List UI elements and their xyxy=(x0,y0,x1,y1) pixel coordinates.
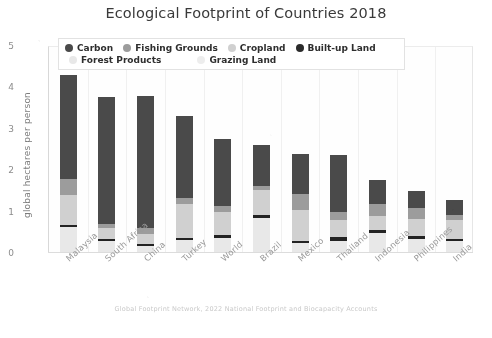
gridline xyxy=(204,47,205,253)
y-axis-tick-label: 4 xyxy=(0,82,14,92)
bar-malaysia[interactable] xyxy=(60,75,77,253)
bar-segment-cropland xyxy=(330,220,347,237)
bar-segment-carbon xyxy=(176,116,193,198)
bar-segment-cropland xyxy=(98,228,115,239)
bar-philippines[interactable] xyxy=(408,191,425,253)
legend-swatch-icon xyxy=(65,44,73,52)
bar-segment-fishing-grounds xyxy=(60,179,77,195)
y-axis-tick-label: 0 xyxy=(0,248,14,258)
bar-world[interactable] xyxy=(214,139,231,253)
legend-item-grazing-land[interactable]: Grazing Land xyxy=(197,54,276,66)
legend-label: Grazing Land xyxy=(209,55,276,65)
chart-figure: Ecological Footprint of Countries 2018 g… xyxy=(0,0,492,338)
bar-segment-carbon xyxy=(408,191,425,208)
bar-south-africa[interactable] xyxy=(98,97,115,253)
bar-segment-cropland xyxy=(369,216,386,230)
bar-segment-carbon xyxy=(98,97,115,224)
bar-segment-carbon xyxy=(446,200,463,215)
y-axis-label: global hectares per person xyxy=(22,65,32,245)
legend-label: Carbon xyxy=(77,43,113,53)
y-axis-tick-label: 5 xyxy=(0,41,14,51)
bar-segment-carbon xyxy=(292,154,309,195)
chart-title: Ecological Footprint of Countries 2018 xyxy=(0,5,492,21)
bar-segment-carbon xyxy=(60,75,77,179)
legend-item-built-up-land[interactable]: Built-up Land xyxy=(296,42,376,54)
source-footnote: Global Footprint Network, 2022 National … xyxy=(0,305,492,313)
gridline xyxy=(435,47,436,253)
bar-segment-cropland xyxy=(60,195,77,225)
bar-brazil[interactable] xyxy=(253,145,270,253)
y-axis-tick-label: 1 xyxy=(0,207,14,217)
bar-turkey[interactable] xyxy=(176,116,193,253)
gridline xyxy=(319,47,320,253)
legend-swatch-icon xyxy=(197,56,205,64)
bar-segment-carbon xyxy=(369,180,386,204)
bar-segment-cropland xyxy=(176,204,193,238)
bar-segment-carbon xyxy=(137,96,154,228)
bar-segment-fishing-grounds xyxy=(292,194,309,210)
legend-swatch-icon xyxy=(228,44,236,52)
legend-label: Forest Products xyxy=(81,55,161,65)
gridline xyxy=(88,47,89,253)
bar-segment-fishing-grounds xyxy=(330,212,347,220)
gridline xyxy=(165,47,166,253)
bar-segment-carbon xyxy=(214,139,231,206)
bar-segment-cropland xyxy=(292,210,309,241)
plot-area xyxy=(48,46,473,253)
legend-item-carbon[interactable]: Carbon xyxy=(65,42,113,54)
y-axis-tick-label: 2 xyxy=(0,165,14,175)
gridline xyxy=(358,47,359,253)
legend-label: Built-up Land xyxy=(308,43,376,53)
bar-segment-carbon xyxy=(330,155,347,212)
bar-segment-cropland xyxy=(214,212,231,235)
bar-segment-carbon xyxy=(253,145,270,186)
gridline xyxy=(397,47,398,253)
legend-item-cropland[interactable]: Cropland xyxy=(228,42,286,54)
legend-swatch-icon xyxy=(69,56,77,64)
bar-indonesia[interactable] xyxy=(369,180,386,253)
legend-item-forest-products[interactable]: Forest Products xyxy=(69,54,161,66)
legend-swatch-icon xyxy=(123,44,131,52)
gridline xyxy=(281,47,282,253)
gridline xyxy=(126,47,127,253)
legend-label: Cropland xyxy=(240,43,286,53)
legend-item-fishing-grounds[interactable]: Fishing Grounds xyxy=(123,42,218,54)
legend-swatch-icon xyxy=(296,44,304,52)
bar-thailand[interactable] xyxy=(330,155,347,253)
gridline xyxy=(242,47,243,253)
legend-label: Fishing Grounds xyxy=(135,43,218,53)
bar-segment-fishing-grounds xyxy=(369,204,386,216)
chart-legend: CarbonFishing GroundsCroplandBuilt-up La… xyxy=(58,38,405,70)
y-axis-tick-label: 3 xyxy=(0,124,14,134)
bar-segment-fishing-grounds xyxy=(408,208,425,219)
bar-mexico[interactable] xyxy=(292,154,309,253)
bar-segment-cropland xyxy=(253,190,270,215)
